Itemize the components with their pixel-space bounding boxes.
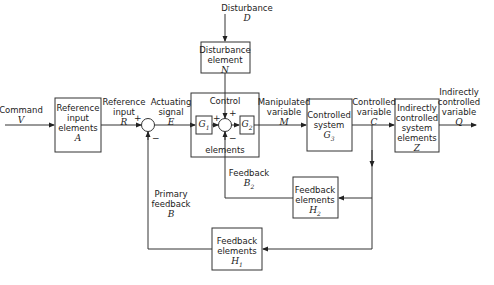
h1-line1: Feedback bbox=[217, 236, 257, 246]
feedback-b2-label: Feedback B2 bbox=[229, 168, 269, 192]
g2-label: G2 bbox=[241, 119, 252, 133]
h1-line2: elements bbox=[217, 246, 257, 256]
e-line2: signal bbox=[151, 107, 192, 117]
b2-sub: 2 bbox=[250, 183, 254, 190]
g3-symbol: G bbox=[323, 130, 330, 140]
q-symbol: Q bbox=[438, 117, 480, 127]
indirectly-controlled-variable-label: Indirectly controlled variable Q bbox=[438, 87, 480, 127]
pb-line1: Primary bbox=[151, 189, 190, 199]
pb-symbol: B bbox=[151, 209, 190, 219]
indirectly-controlled-system-label: Indirectly controlled system elements Z bbox=[396, 103, 438, 153]
n-line1: Disturbance bbox=[199, 45, 250, 55]
controlled-system-label: Controlled system G3 bbox=[307, 110, 351, 144]
b2-symbol: B bbox=[244, 178, 251, 188]
z-line2: controlled bbox=[396, 113, 438, 123]
n-symbol: N bbox=[199, 65, 250, 75]
e-symbol: E bbox=[151, 117, 192, 127]
disturbance-element-label: Disturbance element N bbox=[199, 45, 250, 75]
sum2-plus-left: + bbox=[213, 114, 221, 123]
m-symbol: M bbox=[258, 117, 311, 127]
z-line3: system bbox=[396, 123, 438, 133]
disturbance-label: Disturbance D bbox=[221, 3, 272, 23]
q-line1: Indirectly bbox=[438, 87, 480, 97]
sum2-minus-sign: − bbox=[229, 134, 237, 143]
actuating-signal-label: Actuating signal E bbox=[151, 97, 192, 127]
c-symbol: C bbox=[352, 117, 396, 127]
h2-sub: 2 bbox=[317, 210, 321, 217]
c-line2: variable bbox=[352, 107, 396, 117]
sum2-plus-top: + bbox=[229, 109, 237, 118]
pb-line2: feedback bbox=[151, 199, 190, 209]
elements-label: elements bbox=[205, 145, 244, 155]
a-line2: input bbox=[57, 113, 100, 123]
a-symbol: A bbox=[57, 133, 100, 143]
feedback-h1-label: Feedback elements H1 bbox=[217, 236, 257, 270]
q-line2: controlled bbox=[438, 97, 480, 107]
z-line1: Indirectly bbox=[396, 103, 438, 113]
control-label: Control bbox=[210, 96, 241, 106]
z-symbol: Z bbox=[396, 143, 438, 153]
command-label: Command V bbox=[0, 105, 43, 125]
h2-line1: Feedback bbox=[295, 185, 335, 195]
sum1-plus-sign: + bbox=[134, 114, 142, 123]
command-symbol: V bbox=[0, 115, 43, 125]
primary-feedback-label: Primary feedback B bbox=[151, 189, 190, 219]
r-line1: Reference bbox=[103, 97, 146, 107]
n-line2: element bbox=[199, 55, 250, 65]
q-line3: variable bbox=[438, 107, 480, 117]
h2-line2: elements bbox=[295, 195, 335, 205]
d-symbol: D bbox=[221, 13, 272, 23]
g3-line2: system bbox=[307, 120, 351, 130]
d-text: Disturbance bbox=[221, 3, 272, 13]
command-text: Command bbox=[0, 105, 43, 115]
h1-sub: 1 bbox=[239, 261, 243, 268]
g1-label: G1 bbox=[198, 119, 209, 133]
feedback-h2-label: Feedback elements H2 bbox=[295, 185, 335, 219]
manipulated-variable-label: Manipulated variable M bbox=[258, 97, 311, 127]
a-line3: elements bbox=[57, 123, 100, 133]
b2-line1: Feedback bbox=[229, 168, 269, 178]
e-line1: Actuating bbox=[151, 97, 192, 107]
g2-sub: 2 bbox=[249, 124, 253, 131]
a-line1: Reference bbox=[57, 103, 100, 113]
z-line4: elements bbox=[396, 133, 438, 143]
m-line2: variable bbox=[258, 107, 311, 117]
reference-input-elements-label: Reference input elements A bbox=[57, 103, 100, 143]
m-line1: Manipulated bbox=[258, 97, 311, 107]
sum1-minus-sign: − bbox=[152, 134, 160, 143]
g1-sub: 1 bbox=[206, 124, 210, 131]
controlled-variable-label: Controlled variable C bbox=[352, 97, 396, 127]
c-line1: Controlled bbox=[352, 97, 396, 107]
g3-line1: Controlled bbox=[307, 110, 351, 120]
g3-sub: 3 bbox=[331, 135, 335, 142]
